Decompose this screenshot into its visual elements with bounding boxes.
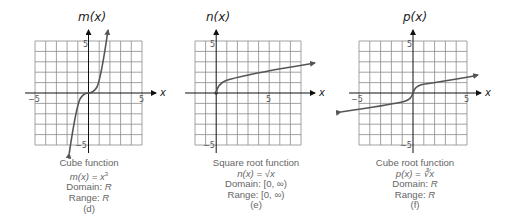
y-min-label: −5 bbox=[75, 141, 87, 150]
x-max-label: 5 bbox=[139, 95, 144, 104]
x-axis-label: x bbox=[159, 87, 166, 98]
y-min-label: −5 bbox=[400, 141, 412, 150]
y-min-label: −5 bbox=[203, 141, 215, 150]
caption-square-root-function: Square root function n(x) = √x Domain: [… bbox=[176, 158, 336, 211]
graph-cube-function: m(x) x −5 5 5 −5 bbox=[25, 10, 166, 154]
panel-tag: (f) bbox=[335, 200, 495, 211]
x-max-label: 5 bbox=[464, 95, 469, 104]
graph-title: m(x) bbox=[78, 10, 106, 24]
x-min-label: −5 bbox=[28, 95, 40, 104]
function-name: Cube function bbox=[9, 158, 169, 169]
graph-title: n(x) bbox=[206, 10, 230, 24]
x-axis-label: x bbox=[318, 87, 325, 98]
caption-cube-function: Cube function m(x) = x3 Domain: R Range:… bbox=[9, 158, 169, 214]
y-max-label: 5 bbox=[210, 40, 215, 49]
x-max-label: 5 bbox=[266, 95, 271, 104]
y-max-label: 5 bbox=[83, 40, 88, 49]
x-axis-label: x bbox=[484, 87, 491, 98]
function-formula: m(x) = x3 bbox=[9, 169, 169, 183]
function-range: Range: R bbox=[9, 193, 169, 204]
graph-square-root-function: n(x) x 5 5 −5 bbox=[185, 10, 325, 153]
panel-tag: (e) bbox=[176, 200, 336, 211]
square-root-curve bbox=[216, 63, 315, 93]
graph-title: p(x) bbox=[402, 10, 427, 24]
x-min-label: −5 bbox=[351, 95, 363, 104]
y-max-label: 5 bbox=[407, 40, 412, 49]
panel-tag: (d) bbox=[9, 204, 169, 215]
caption-cube-root-function: Cube root function p(x) = ∛x Domain: R R… bbox=[335, 158, 495, 211]
graph-cube-root-function: p(x) x −5 5 5 −5 bbox=[341, 10, 491, 153]
